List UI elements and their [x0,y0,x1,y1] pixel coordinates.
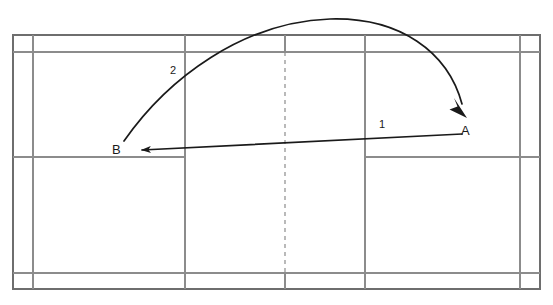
label-shot-1: 1 [379,119,385,130]
label-point-a: A [461,124,470,137]
court-svg [0,0,553,305]
court-lines [13,35,540,289]
court-outer-boundary [13,35,540,289]
shot-paths [124,19,467,150]
shot-path-1-straight [142,134,462,150]
shot-2-arrowhead [450,98,468,118]
shot-path-2-lob [124,19,462,141]
label-shot-2: 2 [170,65,176,76]
label-point-b: B [112,143,121,156]
badminton-court-diagram: A B 1 2 [0,0,553,305]
